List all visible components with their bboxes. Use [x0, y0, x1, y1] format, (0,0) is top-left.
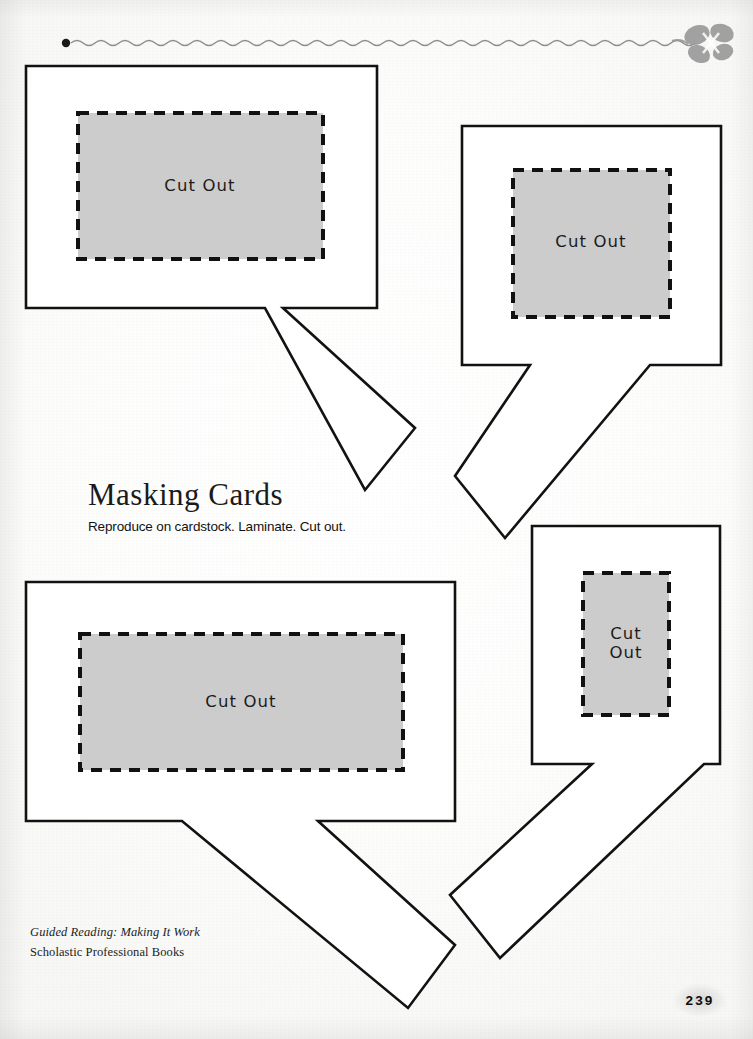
card-top-right[interactable]: [455, 126, 721, 538]
footer-publisher: Scholastic Professional Books: [30, 945, 200, 960]
wavy-rule-start-dot: [62, 39, 70, 47]
cut-out-window: [513, 170, 670, 317]
wavy-rule-icon: [71, 41, 695, 46]
page-title: Masking Cards: [88, 479, 346, 510]
page-canvas: Cut Out Cut Out Cut Out Cut Out Masking …: [0, 0, 753, 1039]
header-ornament: [62, 21, 736, 67]
footer-block: Guided Reading: Making It Work Scholasti…: [30, 925, 200, 960]
title-block: Masking Cards Reproduce on cardstock. La…: [88, 479, 346, 534]
bow-icon: [672, 21, 736, 67]
page-number-badge: 239: [673, 983, 727, 1017]
cut-out-window: [78, 113, 323, 259]
cut-out-window: [583, 573, 669, 715]
page-subtitle: Reproduce on cardstock. Laminate. Cut ou…: [88, 519, 346, 534]
page-number: 239: [685, 993, 714, 1008]
footer-book-title: Guided Reading: Making It Work: [30, 925, 200, 940]
cut-out-window: [80, 634, 403, 770]
card-bottom-right[interactable]: [450, 526, 720, 958]
card-top-left[interactable]: [26, 66, 415, 490]
